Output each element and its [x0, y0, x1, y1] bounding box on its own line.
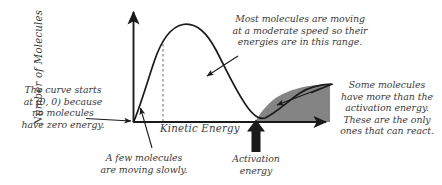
activation-energy-arrow: [247, 120, 265, 153]
leader-most-molecules: [207, 56, 238, 76]
leader-few-molecules: [141, 108, 153, 148]
annotation-activation-energy: Activation energy: [216, 153, 296, 176]
maxwell-boltzmann-distribution-diagram: Kinetic Energy Number of Molecules The c…: [0, 0, 442, 185]
annotation-curve-start: The curve starts at (0, 0) because no mo…: [4, 84, 122, 130]
annotation-few-molecules: A few molecules are moving slowly.: [78, 152, 210, 175]
annotation-most-molecules: Most molecules are moving at a moderate …: [214, 13, 386, 48]
annotation-some-molecules: Some molecules have more than the activa…: [334, 79, 440, 137]
x-axis-label: Kinetic Energy: [160, 123, 240, 134]
